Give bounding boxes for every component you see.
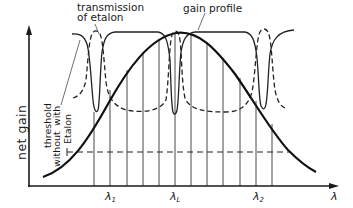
lambda-1-label: λ1 [104, 190, 116, 204]
threshold-with-leader-line [61, 40, 80, 105]
axes [26, 25, 339, 189]
without-label: without [51, 131, 62, 167]
gain-profile-leader-line [198, 13, 205, 30]
lambda-2-label: λ2 [252, 190, 265, 204]
transmission-label-line2: of etalon [77, 11, 123, 23]
laser-etalon-diagram: transmission of etalon gain profile net … [0, 0, 353, 208]
gain-profile-curve [43, 33, 316, 177]
transmission-leader-line [95, 24, 99, 34]
y-axis-label: net gain [14, 105, 29, 160]
etalon-label: Etalon [62, 114, 73, 144]
longitudinal-mode-lines [94, 33, 272, 186]
gain-profile-label: gain profile [183, 2, 242, 14]
x-axis-label: λ [330, 190, 338, 203]
y-axis-arrow-icon [26, 25, 32, 35]
with-label: with [51, 106, 62, 126]
x-axis-arrow-icon [329, 183, 339, 189]
lambda-l-label: λL [169, 190, 181, 204]
etalon-transmission-curve [72, 30, 294, 114]
